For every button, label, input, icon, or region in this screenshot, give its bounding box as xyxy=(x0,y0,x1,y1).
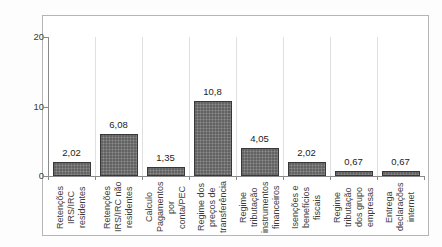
x-axis-tick xyxy=(283,177,284,180)
x-axis-tick xyxy=(236,177,237,180)
bar-value-label: 2,02 xyxy=(48,147,95,158)
x-axis-category-label: Isenções e benefícios fiscais xyxy=(283,181,330,233)
x-axis-category-label: Regime dos preços de transferência xyxy=(189,181,236,233)
bar-value-label: 6,08 xyxy=(95,119,142,130)
bar-chart-figure: 010202,02Retenções IRS/IRC residentes6,0… xyxy=(0,0,442,247)
bar xyxy=(194,101,232,176)
y-axis-tick-label: 20 xyxy=(20,32,44,42)
x-axis-tick xyxy=(330,177,331,180)
bar xyxy=(147,167,185,176)
y-axis-tick-label: 0 xyxy=(20,171,44,181)
x-axis-category-label: Regime tributação instrumentos financeir… xyxy=(236,181,283,233)
bar-value-label: 0,67 xyxy=(330,156,377,167)
bar-value-label: 10,8 xyxy=(189,86,236,97)
x-axis-category-label-text: Regime dos preços de transferência xyxy=(196,181,229,233)
x-axis-category-label: Regime tributação dos grupo empresas xyxy=(330,181,377,233)
bar-value-label: 1,35 xyxy=(142,152,189,163)
bar-value-label: 2,02 xyxy=(283,147,330,158)
bar-value-label: 4,05 xyxy=(236,133,283,144)
bar xyxy=(100,134,138,176)
x-axis-category-label-text: Isenções e benefícios fiscais xyxy=(290,181,323,233)
bar xyxy=(241,148,279,176)
x-axis-category-label-text: Regime tributação instrumentos financeir… xyxy=(238,181,282,233)
y-axis-tick xyxy=(44,37,48,38)
x-axis-tick xyxy=(48,177,49,180)
x-axis-category-label-text: Entrega declarações internet xyxy=(384,181,417,233)
y-axis-tick-label: 10 xyxy=(20,102,44,112)
x-axis-category-label: Retenções IRS/IRC não residentes xyxy=(95,181,142,233)
x-axis-category-label-text: Regime tributação dos grupo empresas xyxy=(332,181,376,233)
x-axis-tick xyxy=(377,177,378,180)
x-axis-category-label: Entrega declarações internet xyxy=(377,181,424,233)
x-axis-category-label-text: Retenções IRS/IRC não residentes xyxy=(102,181,135,233)
x-axis-tick xyxy=(424,177,425,180)
bar xyxy=(53,162,91,176)
x-axis-tick xyxy=(142,177,143,180)
x-axis-category-label-text: Calculo Pagamentos por conta/PEC xyxy=(144,181,188,233)
category-gridline xyxy=(189,37,190,176)
category-gridline xyxy=(95,37,96,176)
x-axis-category-label: Retenções IRS/IRC residentes xyxy=(48,181,95,233)
y-axis-tick xyxy=(44,107,48,108)
bar xyxy=(335,171,373,176)
bar xyxy=(382,171,420,176)
bar-value-label: 0,67 xyxy=(377,156,424,167)
bar xyxy=(288,162,326,176)
x-axis-category-label-text: Retenções IRS/IRC residentes xyxy=(55,181,88,233)
x-axis-tick xyxy=(95,177,96,180)
x-axis-tick xyxy=(189,177,190,180)
category-gridline xyxy=(236,37,237,176)
x-axis-category-label: Calculo Pagamentos por conta/PEC xyxy=(142,181,189,233)
